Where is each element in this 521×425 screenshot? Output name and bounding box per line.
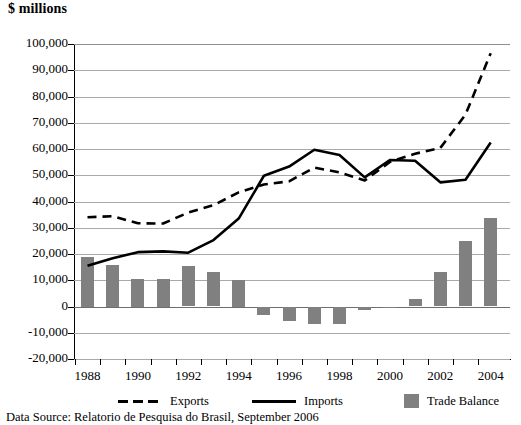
x-axis-label: 1994 xyxy=(219,368,259,384)
x-axis-tick xyxy=(151,359,152,365)
x-axis-label: 1990 xyxy=(118,368,158,384)
y-axis-label: 10,000 xyxy=(4,272,68,285)
y-axis-labels: 100,00090,00080,00070,00060,00050,00040,… xyxy=(0,0,68,423)
x-axis-tick xyxy=(327,359,328,365)
legend-item-exports[interactable]: Exports xyxy=(118,392,209,410)
y-axis-label: 60,000 xyxy=(4,141,68,154)
y-axis-tick xyxy=(68,149,74,150)
x-axis-tick xyxy=(176,359,177,365)
y-axis-label: 30,000 xyxy=(4,220,68,233)
legend-item-trade-balance[interactable]: Trade Balance xyxy=(404,392,499,410)
y-axis-tick xyxy=(68,254,74,255)
y-axis-label: -10,000 xyxy=(4,325,68,338)
x-axis-label: 2004 xyxy=(471,368,511,384)
y-axis-label: 70,000 xyxy=(4,115,68,128)
legend-label-exports: Exports xyxy=(170,394,209,409)
y-axis-tick xyxy=(68,228,74,229)
y-axis-tick xyxy=(68,333,74,334)
y-axis-tick xyxy=(68,97,74,98)
legend-label-trade-balance: Trade Balance xyxy=(427,394,499,409)
gridline xyxy=(74,359,510,360)
y-axis-tick xyxy=(68,175,74,176)
solid-line-marker-icon xyxy=(252,395,296,407)
y-axis-tick xyxy=(68,359,74,360)
y-axis-tick xyxy=(68,307,74,308)
dashed-line-marker-icon xyxy=(118,395,162,407)
y-axis-label: 20,000 xyxy=(4,246,68,259)
x-axis-tick xyxy=(403,359,404,365)
x-axis-tick xyxy=(201,359,202,365)
x-axis-label: 1992 xyxy=(168,368,208,384)
x-axis-label: 1996 xyxy=(269,368,309,384)
y-axis-tick xyxy=(68,202,74,203)
line-series-layer xyxy=(74,44,510,359)
x-axis-tick xyxy=(377,359,378,365)
source-note: Data Source: Relatorio de Pesquisa do Br… xyxy=(6,410,319,425)
y-axis-tick xyxy=(68,70,74,71)
y-axis-label: -20,000 xyxy=(4,351,68,364)
legend-item-imports[interactable]: Imports xyxy=(252,392,343,410)
y-axis-tick xyxy=(68,123,74,124)
x-axis-tick xyxy=(251,359,252,365)
x-axis-label: 1988 xyxy=(68,368,108,384)
x-axis-tick xyxy=(226,359,227,365)
x-axis-label: 2002 xyxy=(420,368,460,384)
plot-area xyxy=(74,44,510,359)
y-axis-label: 80,000 xyxy=(4,89,68,102)
y-axis-label: 40,000 xyxy=(4,194,68,207)
line-series-exports xyxy=(88,53,491,223)
x-axis-tick xyxy=(428,359,429,365)
x-axis-tick xyxy=(125,359,126,365)
y-axis-tick xyxy=(68,280,74,281)
x-axis-tick xyxy=(277,359,278,365)
y-axis-label: 50,000 xyxy=(4,167,68,180)
y-axis-label: 100,000 xyxy=(4,36,68,49)
x-axis-tick xyxy=(453,359,454,365)
x-axis-label: 1998 xyxy=(320,368,360,384)
x-axis-tick xyxy=(75,359,76,365)
y-axis-tick xyxy=(68,44,74,45)
x-axis-label: 2000 xyxy=(370,368,410,384)
x-axis-tick xyxy=(352,359,353,365)
chart-legend: Exports Imports Trade Balance xyxy=(0,392,521,412)
y-axis-label: 90,000 xyxy=(4,62,68,75)
gray-square-swatch-icon xyxy=(404,394,419,408)
x-axis-tick xyxy=(302,359,303,365)
x-axis-tick xyxy=(478,359,479,365)
x-axis-tick xyxy=(100,359,101,365)
legend-label-imports: Imports xyxy=(304,394,343,409)
line-series-imports xyxy=(88,142,491,265)
y-axis-label: 0 xyxy=(4,299,68,312)
